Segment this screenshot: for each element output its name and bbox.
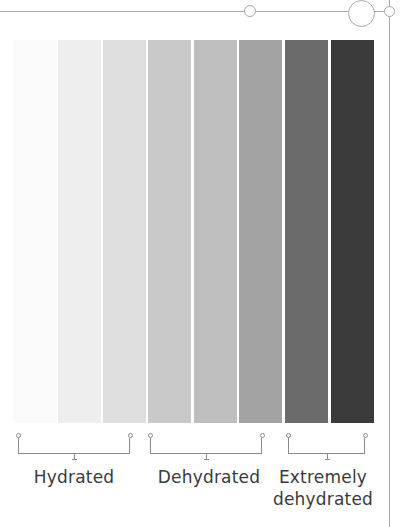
label-line-1: Extremely (268, 466, 378, 488)
large-node-circle-icon (348, 0, 375, 27)
bracket-extremely-dehydrated (288, 438, 365, 454)
decorative-vertical-line (389, 0, 390, 527)
small-node-circle-icon (244, 5, 256, 17)
label-dehydrated: Dehydrated (153, 466, 265, 488)
color-swatch-4 (148, 40, 191, 423)
color-swatch-5 (194, 40, 237, 423)
bracket-end-icon (128, 433, 133, 438)
bracket-tick-icon (327, 454, 328, 460)
bracket-end-icon (148, 433, 153, 438)
label-extremely-dehydrated: Extremely dehydrated (268, 466, 378, 510)
bracket-tick-icon (74, 454, 75, 460)
edge-node-circle-icon (384, 6, 395, 17)
bracket-tick-icon (206, 454, 207, 460)
decorative-top-line (0, 11, 388, 12)
bracket-end-icon (16, 433, 21, 438)
color-swatch-7 (285, 40, 328, 423)
color-swatch-3 (103, 40, 146, 423)
label-hydrated: Hydrated (24, 466, 124, 488)
color-swatch-1 (13, 40, 56, 423)
bracket-hydrated (18, 438, 130, 454)
color-swatch-8 (331, 40, 374, 423)
label-line-2: dehydrated (268, 488, 378, 510)
bracket-end-icon (260, 433, 265, 438)
bracket-dehydrated (150, 438, 262, 454)
bracket-end-icon (286, 433, 291, 438)
color-swatch-2 (58, 40, 101, 423)
color-swatch-6 (239, 40, 282, 423)
bracket-end-icon (363, 433, 368, 438)
